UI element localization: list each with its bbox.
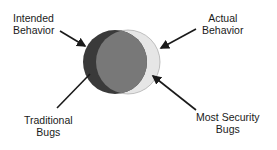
pointer-traditional-bugs (57, 74, 90, 108)
label-intended-behavior: Intended Behavior (13, 12, 54, 36)
label-traditional-bugs: Traditional Bugs (24, 114, 73, 138)
arrow-most-security-bugs (153, 76, 196, 110)
label-line: Actual (202, 12, 243, 24)
label-line: Bugs (24, 126, 73, 138)
arrow-actual-behavior (161, 29, 196, 48)
label-most-security-bugs: Most Security Bugs (196, 111, 260, 135)
label-line: Bugs (196, 123, 260, 135)
label-line: Behavior (13, 24, 54, 36)
label-line: Most Security (196, 111, 260, 123)
label-line: Intended (13, 12, 54, 24)
label-line: Behavior (202, 24, 243, 36)
label-line: Traditional (24, 114, 73, 126)
arrow-intended-behavior (60, 31, 85, 46)
label-actual-behavior: Actual Behavior (202, 12, 243, 36)
